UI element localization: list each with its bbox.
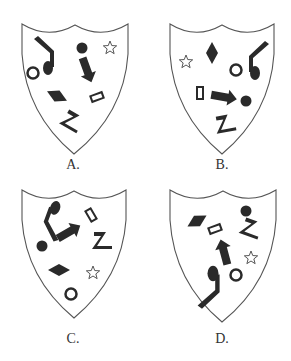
dot-icon (77, 43, 88, 54)
dot-icon (241, 96, 252, 107)
option-label: A. (66, 157, 80, 173)
shield-outline (22, 24, 128, 154)
puzzle-figure (0, 0, 291, 361)
option-label: D. (215, 331, 229, 347)
dot-icon (37, 241, 48, 252)
shield-option-a[interactable] (22, 24, 128, 154)
shield-option-c[interactable] (22, 190, 126, 318)
option-label: C. (67, 331, 80, 347)
shield-option-d[interactable] (170, 190, 276, 322)
shield-outline (170, 24, 274, 154)
option-label: B. (216, 157, 229, 173)
shield-option-b[interactable] (170, 24, 274, 154)
dot-icon (241, 206, 252, 217)
